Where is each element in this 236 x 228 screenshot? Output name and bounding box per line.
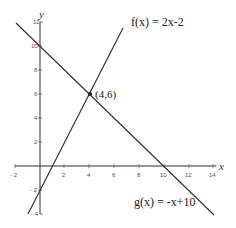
y-tick-label: - 4 <box>31 211 39 217</box>
intersection-label: (4,6) <box>95 88 116 101</box>
y-tick-label: 6 <box>34 91 38 97</box>
g-label: g(x) = -x+10 <box>134 195 196 209</box>
y-axis-label: y <box>38 8 44 20</box>
chart: - 2 2 4 6 8 10 12 14 12 10 8 6 4 2 - 2 -… <box>0 0 236 228</box>
x-tick-label: 8 <box>137 172 141 178</box>
line-f <box>28 28 123 214</box>
x-tick-label: 6 <box>112 172 116 178</box>
y-tick-label: - 2 <box>30 187 38 193</box>
x-tick-label: 12 <box>185 172 192 178</box>
f-label: f(x) = 2x-2 <box>131 15 184 29</box>
y-tick-label: 2 <box>34 139 38 145</box>
x-tick-label: 4 <box>87 172 91 178</box>
x-tick-label: 10 <box>160 172 167 178</box>
x-tick-label: 14 <box>209 172 216 178</box>
y-tick-label: 8 <box>34 67 38 73</box>
x-tick-label: 2 <box>62 172 66 178</box>
intersection-point <box>88 92 92 96</box>
x-axis-label: x <box>218 160 224 172</box>
line-g <box>16 23 214 215</box>
y-tick-label: 4 <box>34 115 38 121</box>
x-tick-label: - 2 <box>10 172 18 178</box>
